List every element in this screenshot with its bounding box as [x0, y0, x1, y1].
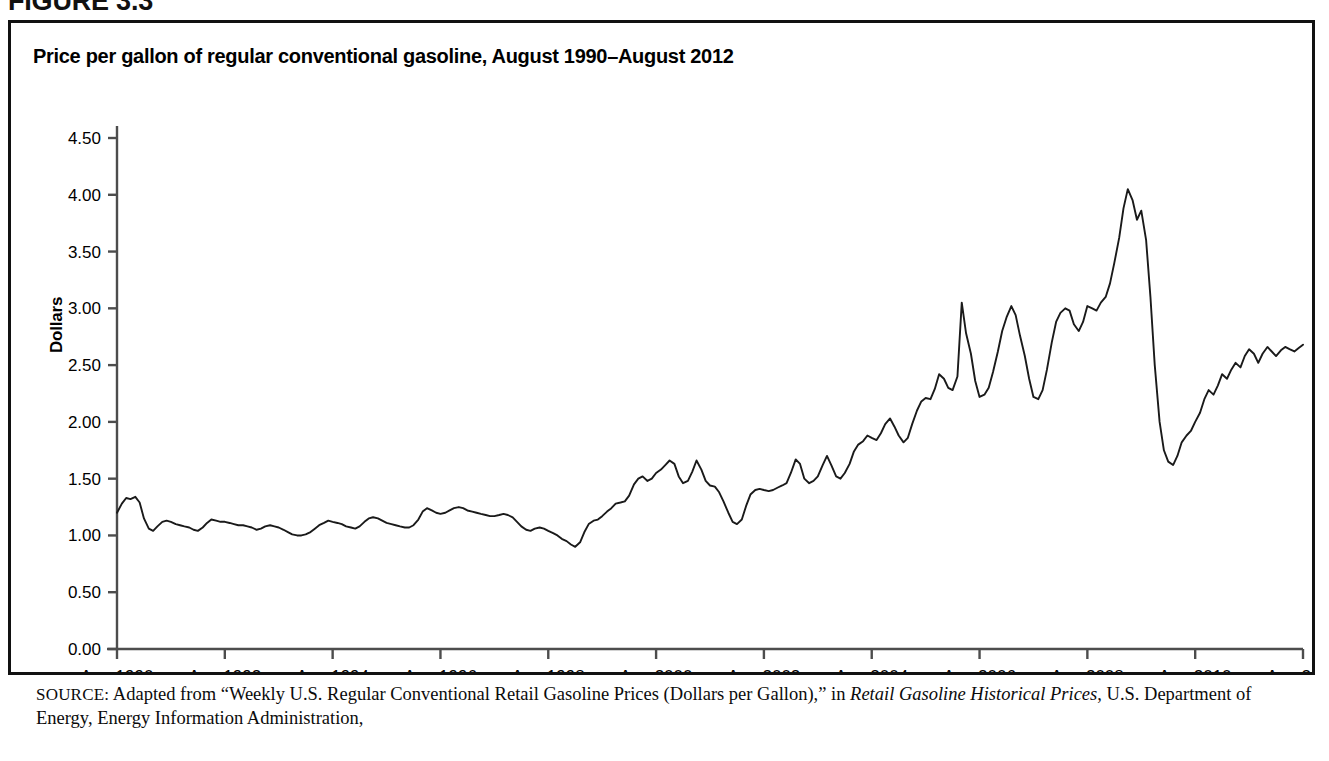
- svg-text:Aug 2002: Aug 2002: [728, 667, 801, 672]
- svg-text:3.00: 3.00: [68, 299, 101, 318]
- svg-text:Aug 2010: Aug 2010: [1159, 667, 1232, 672]
- svg-text:Aug 2004: Aug 2004: [835, 667, 908, 672]
- svg-text:Aug 2006: Aug 2006: [943, 667, 1016, 672]
- svg-text:1.00: 1.00: [68, 526, 101, 545]
- figure-box: Price per gallon of regular conventional…: [8, 20, 1315, 675]
- chart-plot-area: 0.000.501.001.502.002.503.003.504.004.50…: [11, 23, 1312, 672]
- svg-text:Aug 1998: Aug 1998: [512, 667, 585, 672]
- figure-number: FIGURE 3.3: [8, 0, 153, 17]
- svg-text:4.50: 4.50: [68, 129, 101, 148]
- svg-text:4.00: 4.00: [68, 186, 101, 205]
- svg-text:1.50: 1.50: [68, 470, 101, 489]
- svg-text:Aug 2008: Aug 2008: [1051, 667, 1124, 672]
- source-note: SOURCE: Adapted from “Weekly U.S. Regula…: [36, 683, 1306, 730]
- svg-text:Aug 1990: Aug 1990: [81, 667, 154, 672]
- svg-text:Aug 1992: Aug 1992: [188, 667, 261, 672]
- svg-text:2.00: 2.00: [68, 413, 101, 432]
- source-label: SOURCE:: [36, 685, 109, 704]
- svg-text:Aug 1994: Aug 1994: [296, 667, 369, 672]
- svg-text:Aug 2012: Aug 2012: [1267, 667, 1312, 672]
- source-text-before: Adapted from “Weekly U.S. Regular Conven…: [109, 684, 850, 704]
- svg-text:Aug 2000: Aug 2000: [620, 667, 693, 672]
- source-publication-title: Retail Gasoline Historical Prices: [850, 684, 1097, 704]
- svg-text:0.00: 0.00: [68, 640, 101, 659]
- svg-text:Aug 1996: Aug 1996: [404, 667, 477, 672]
- svg-text:0.50: 0.50: [68, 583, 101, 602]
- line-chart-svg: 0.000.501.001.502.002.503.003.504.004.50…: [11, 23, 1312, 672]
- svg-text:2.50: 2.50: [68, 356, 101, 375]
- svg-text:3.50: 3.50: [68, 243, 101, 262]
